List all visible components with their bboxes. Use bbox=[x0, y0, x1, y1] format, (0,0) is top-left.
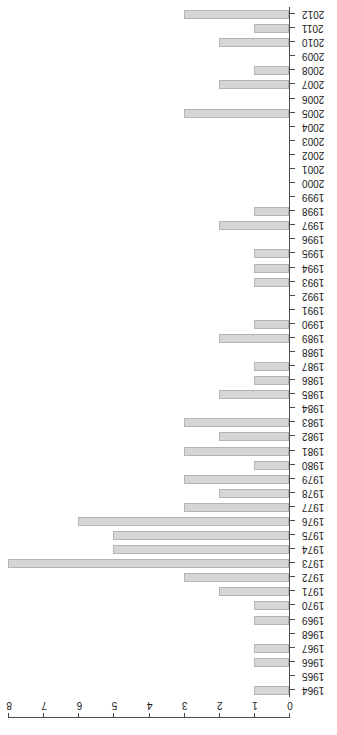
category-tick-label-2001: 2001 bbox=[299, 162, 337, 176]
value-tick-label: 4 bbox=[138, 699, 162, 711]
bar-1994 bbox=[254, 264, 289, 273]
category-tick bbox=[290, 55, 295, 56]
bar-1977 bbox=[184, 503, 289, 512]
bar-1978 bbox=[219, 489, 289, 498]
category-tick bbox=[290, 252, 295, 253]
bar-1982 bbox=[219, 433, 289, 442]
category-tick bbox=[290, 534, 295, 535]
category-tick-label-2007: 2007 bbox=[299, 77, 337, 91]
bar-1975 bbox=[114, 531, 290, 540]
category-tick bbox=[290, 337, 295, 338]
category-tick bbox=[290, 27, 295, 28]
category-tick-label-1965: 1965 bbox=[299, 669, 337, 683]
category-tick-label-2009: 2009 bbox=[299, 49, 337, 63]
category-tick bbox=[290, 393, 295, 394]
category-tick-label-1988: 1988 bbox=[299, 345, 337, 359]
category-tick-label-1998: 1998 bbox=[299, 204, 337, 218]
category-tick-label-1973: 1973 bbox=[299, 556, 337, 570]
category-tick bbox=[290, 351, 295, 352]
category-tick bbox=[290, 140, 295, 141]
bar-2010 bbox=[219, 38, 289, 47]
bar-1972 bbox=[184, 573, 289, 582]
category-tick-label-1967: 1967 bbox=[299, 641, 337, 655]
category-tick bbox=[290, 196, 295, 197]
plot-area: 012345678 196419651966196719681969197019… bbox=[0, 0, 337, 735]
category-tick-label-1979: 1979 bbox=[299, 472, 337, 486]
category-tick-label-1974: 1974 bbox=[299, 542, 337, 556]
category-tick bbox=[290, 323, 295, 324]
bar-1987 bbox=[254, 362, 289, 371]
bar-1967 bbox=[254, 644, 289, 653]
category-tick-label-2008: 2008 bbox=[299, 63, 337, 77]
bar-2012 bbox=[184, 10, 289, 19]
value-tick-label: 2 bbox=[208, 699, 232, 711]
category-tick-label-1982: 1982 bbox=[299, 430, 337, 444]
category-tick bbox=[290, 562, 295, 563]
category-tick bbox=[290, 492, 295, 493]
category-tick-label-1989: 1989 bbox=[299, 331, 337, 345]
category-tick-label-2012: 2012 bbox=[299, 7, 337, 21]
category-tick bbox=[290, 13, 295, 14]
category-tick-label-1985: 1985 bbox=[299, 387, 337, 401]
category-tick bbox=[290, 647, 295, 648]
category-tick bbox=[290, 421, 295, 422]
category-tick-label-1993: 1993 bbox=[299, 275, 337, 289]
value-tick-label: 1 bbox=[243, 699, 267, 711]
category-tick-label-1997: 1997 bbox=[299, 218, 337, 232]
bar-1980 bbox=[254, 461, 289, 470]
category-tick-label-1981: 1981 bbox=[299, 444, 337, 458]
category-tick bbox=[290, 69, 295, 70]
category-tick-label-2003: 2003 bbox=[299, 134, 337, 148]
category-tick-label-1994: 1994 bbox=[299, 261, 337, 275]
category-tick-label-1975: 1975 bbox=[299, 528, 337, 542]
bar-1976 bbox=[78, 517, 289, 526]
category-tick-label-1992: 1992 bbox=[299, 289, 337, 303]
category-tick bbox=[290, 365, 295, 366]
category-tick bbox=[290, 576, 295, 577]
category-tick bbox=[290, 83, 295, 84]
category-tick bbox=[290, 210, 295, 211]
value-tick bbox=[184, 713, 185, 718]
category-tick bbox=[290, 224, 295, 225]
category-tick bbox=[290, 633, 295, 634]
category-tick-label-1976: 1976 bbox=[299, 514, 337, 528]
bar-chart-figure: 012345678 196419651966196719681969197019… bbox=[0, 0, 337, 735]
bar-1973 bbox=[8, 559, 289, 568]
bar-1983 bbox=[184, 418, 289, 427]
category-tick bbox=[290, 506, 295, 507]
value-tick-label: 6 bbox=[67, 699, 91, 711]
category-tick bbox=[290, 281, 295, 282]
category-tick-label-1972: 1972 bbox=[299, 570, 337, 584]
bar-1974 bbox=[114, 545, 290, 554]
value-tick bbox=[43, 713, 44, 718]
category-tick-label-1969: 1969 bbox=[299, 613, 337, 627]
value-tick-label: 7 bbox=[32, 699, 56, 711]
category-tick bbox=[290, 450, 295, 451]
category-tick-label-1996: 1996 bbox=[299, 232, 337, 246]
value-tick bbox=[78, 713, 79, 718]
category-tick bbox=[290, 478, 295, 479]
bar-2007 bbox=[219, 80, 289, 89]
bar-1971 bbox=[219, 587, 289, 596]
category-tick bbox=[290, 407, 295, 408]
bar-1970 bbox=[254, 601, 289, 610]
value-tick bbox=[8, 713, 9, 718]
category-tick bbox=[290, 182, 295, 183]
category-tick bbox=[290, 604, 295, 605]
value-tick bbox=[114, 713, 115, 718]
bar-1993 bbox=[254, 278, 289, 287]
bar-2008 bbox=[254, 66, 289, 75]
category-tick-label-1978: 1978 bbox=[299, 486, 337, 500]
category-tick-label-2000: 2000 bbox=[299, 176, 337, 190]
bar-2005 bbox=[184, 109, 289, 118]
category-tick-label-1968: 1968 bbox=[299, 627, 337, 641]
category-tick-label-1990: 1990 bbox=[299, 317, 337, 331]
category-tick-label-2010: 2010 bbox=[299, 35, 337, 49]
bar-1966 bbox=[254, 658, 289, 667]
category-tick-label-1977: 1977 bbox=[299, 500, 337, 514]
category-tick-label-2002: 2002 bbox=[299, 148, 337, 162]
value-tick bbox=[219, 713, 220, 718]
category-tick bbox=[290, 41, 295, 42]
bar-2011 bbox=[254, 24, 289, 33]
value-tick-label: 0 bbox=[278, 699, 302, 711]
